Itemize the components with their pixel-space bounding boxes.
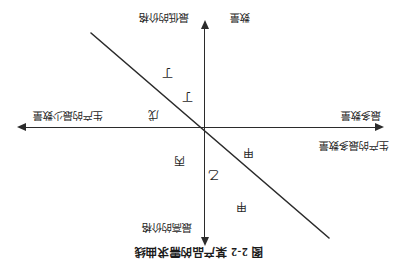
axis-label-vertical-bottom-inner: 数量 (230, 12, 250, 23)
point-marker-e: 戊 (148, 109, 159, 120)
point-marker-b: 甲 (243, 147, 254, 158)
axis-arrow-up-icon (201, 237, 209, 246)
point-marker-f: 丁 (182, 91, 193, 102)
demand-curve-figure: 图 2-2 某产品的需求曲线 最高的价格 最低的价格 数量 生产的最多数量 最多… (0, 0, 397, 260)
axis-arrow-left-icon (375, 124, 384, 132)
axis-arrow-right-icon (17, 124, 26, 132)
axis-label-vertical-bottom-outer: 最低的价格 (139, 12, 189, 23)
vertical-axis (204, 26, 205, 238)
axis-label-vertical-top: 最高的价格 (142, 222, 192, 233)
point-marker-g: 丁 (162, 67, 173, 78)
point-marker-d: 丙 (174, 155, 185, 166)
point-marker-a: 甲 (236, 201, 247, 212)
page-title: 图 2-2 某产品的需求曲线 (0, 246, 397, 258)
demand-curve-line (0, 0, 397, 260)
axis-label-horizontal-left-lower: 最多数量 (341, 110, 381, 121)
horizontal-axis (22, 127, 377, 128)
axis-label-horizontal-right: 生产的最少数量 (33, 110, 103, 121)
point-marker-c: 乙 (208, 169, 219, 180)
axis-arrow-down-icon (201, 20, 209, 29)
axis-label-horizontal-left-upper: 生产的最多数量 (319, 140, 389, 151)
